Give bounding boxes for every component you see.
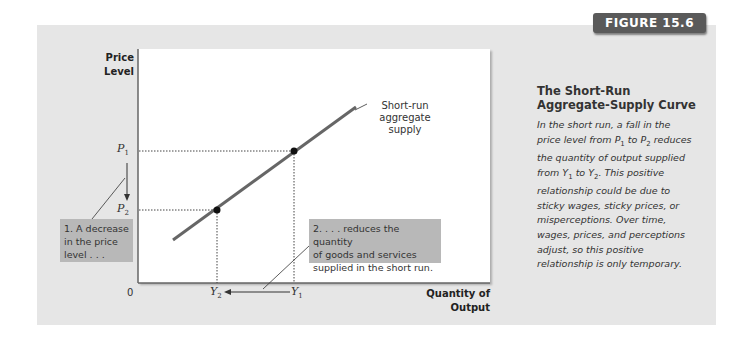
tick-y2-sub: 2 <box>217 292 221 300</box>
x-axis-title: Quantity of Output <box>420 287 490 315</box>
figure-title: The Short-Run Aggregate-Supply Curve <box>537 84 697 112</box>
note2-line2: of goods and services <box>313 248 437 261</box>
x-axis-title-line2: Output <box>420 301 490 315</box>
y-axis-title-line2: Level <box>96 65 134 79</box>
tick-y1-sub: 1 <box>298 292 302 300</box>
caption-part: . This positive relationship could be du… <box>537 167 685 269</box>
tick-y1: Y1 <box>291 285 303 300</box>
y-axis-title: Price Level <box>96 51 134 79</box>
curve-label-line3: supply <box>370 124 440 136</box>
origin-label: 0 <box>127 287 133 298</box>
curve-label: Short-run aggregate supply <box>370 100 440 136</box>
curve-label-line1: Short-run <box>370 100 440 112</box>
note1-line3: level . . . <box>64 248 129 261</box>
figure-title-line2: Aggregate-Supply Curve <box>537 98 697 112</box>
note1-line2: in the price <box>64 235 129 248</box>
price-arrow-head <box>124 194 130 201</box>
tick-p1: P1 <box>117 142 129 157</box>
x-axis-title-line1: Quantity of <box>420 287 490 301</box>
figure-caption: The Short-Run Aggregate-Supply Curve In … <box>537 84 697 272</box>
curve-label-leader <box>355 104 367 110</box>
tick-p1-sub: 1 <box>124 149 128 157</box>
tick-p2-sub: 2 <box>124 209 128 217</box>
figure-caption-text: In the short run, a fall in the price le… <box>537 118 697 272</box>
y-axis-title-line1: Price <box>96 51 134 65</box>
caption-part: to <box>573 167 589 178</box>
note2-line1: 2. . . . reduces the quantity <box>313 222 437 248</box>
figure-title-line1: The Short-Run <box>537 84 697 98</box>
curve-label-line2: aggregate <box>370 112 440 124</box>
point-y1-p1 <box>291 148 298 155</box>
tick-y2: Y2 <box>210 285 222 300</box>
note-quantity-decrease: 2. . . . reduces the quantity of goods a… <box>309 219 441 263</box>
point-y2-p2 <box>214 207 221 214</box>
note1-line1: 1. A decrease <box>64 222 129 235</box>
caption-part: to <box>625 134 641 145</box>
tick-p2: P2 <box>117 202 129 217</box>
quantity-arrow-head <box>224 289 231 295</box>
note-price-decrease: 1. A decrease in the price level . . . <box>60 219 133 262</box>
note2-line3: supplied in the short run. <box>313 261 437 274</box>
